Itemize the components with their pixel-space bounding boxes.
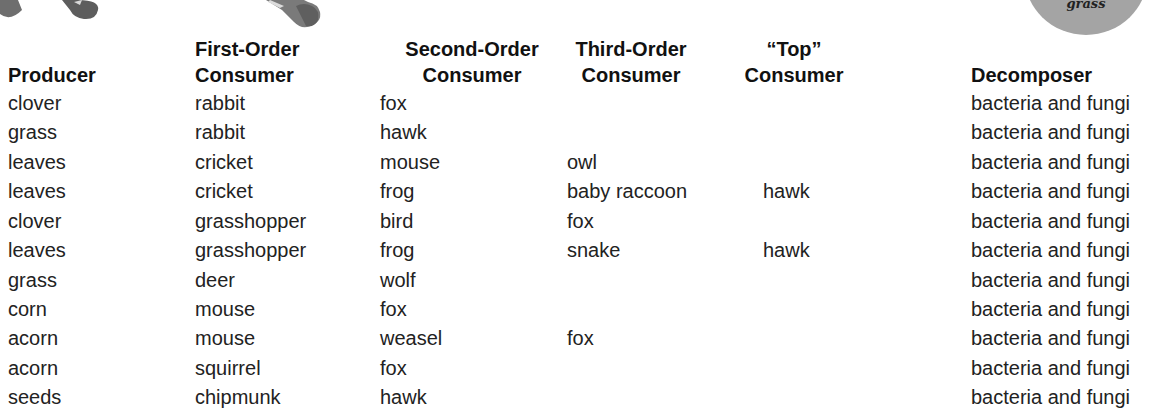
cell-decomposer: bacteria and fungi — [971, 150, 1130, 174]
cell-second-order: frog — [380, 238, 414, 262]
cell-producer: acorn — [8, 356, 58, 380]
cell-third-order: baby raccoon — [567, 179, 687, 203]
header-first-order-consumer: First-Order Consumer — [195, 36, 299, 88]
cell-decomposer: bacteria and fungi — [971, 268, 1130, 292]
cell-decomposer: bacteria and fungi — [971, 356, 1130, 380]
cell-first-order: grasshopper — [195, 209, 306, 233]
cell-decomposer: bacteria and fungi — [971, 120, 1130, 144]
cell-producer: acorn — [8, 326, 58, 350]
cell-first-order: mouse — [195, 326, 255, 350]
header-third-order-consumer: Third-Order Consumer — [566, 36, 696, 88]
cell-first-order: grasshopper — [195, 238, 306, 262]
cell-first-order: cricket — [195, 179, 253, 203]
cell-second-order: fox — [380, 356, 407, 380]
cell-second-order: frog — [380, 179, 414, 203]
cell-first-order: chipmunk — [195, 385, 281, 409]
cell-second-order: bird — [380, 209, 413, 233]
header-line1: Third-Order — [566, 36, 696, 62]
cell-decomposer: bacteria and fungi — [971, 209, 1130, 233]
cell-decomposer: bacteria and fungi — [971, 238, 1130, 262]
cell-top-consumer: hawk — [763, 238, 810, 262]
cell-decomposer: bacteria and fungi — [971, 326, 1130, 350]
header-line2: Consumer — [736, 62, 852, 88]
header-line2: Consumer — [195, 62, 299, 88]
cell-second-order: mouse — [380, 150, 440, 174]
cell-producer: seeds — [8, 385, 61, 409]
cell-producer: clover — [8, 91, 61, 115]
cell-first-order: deer — [195, 268, 235, 292]
header-decomposer: Decomposer — [971, 62, 1092, 88]
cell-producer: corn — [8, 297, 47, 321]
cell-first-order: mouse — [195, 297, 255, 321]
header-line1: First-Order — [195, 36, 299, 62]
cell-second-order: weasel — [380, 326, 442, 350]
cell-second-order: hawk — [380, 385, 427, 409]
cell-second-order: fox — [380, 297, 407, 321]
header-producer: Producer — [8, 62, 96, 88]
cell-producer: clover — [8, 209, 61, 233]
cell-first-order: rabbit — [195, 120, 245, 144]
header-line1: Second-Order — [380, 36, 564, 62]
cell-second-order: wolf — [380, 268, 416, 292]
food-chain-table: Producer First-Order Consumer Second-Ord… — [0, 0, 1154, 410]
cell-first-order: squirrel — [195, 356, 261, 380]
cell-producer: grass — [8, 268, 57, 292]
header-line2: Consumer — [380, 62, 564, 88]
header-label: Producer — [8, 62, 96, 88]
cell-second-order: fox — [380, 91, 407, 115]
cell-decomposer: bacteria and fungi — [971, 385, 1130, 409]
cell-third-order: fox — [567, 209, 594, 233]
cell-second-order: hawk — [380, 120, 427, 144]
cell-producer: leaves — [8, 238, 66, 262]
cell-producer: leaves — [8, 179, 66, 203]
header-second-order-consumer: Second-Order Consumer — [380, 36, 564, 88]
cell-first-order: rabbit — [195, 91, 245, 115]
cell-decomposer: bacteria and fungi — [971, 91, 1130, 115]
cell-third-order: fox — [567, 326, 594, 350]
header-top-consumer: “Top” Consumer — [736, 36, 852, 88]
cell-top-consumer: hawk — [763, 179, 810, 203]
cell-producer: leaves — [8, 150, 66, 174]
header-label: Decomposer — [971, 62, 1092, 88]
cell-producer: grass — [8, 120, 57, 144]
cell-first-order: cricket — [195, 150, 253, 174]
cell-third-order: snake — [567, 238, 620, 262]
cell-decomposer: bacteria and fungi — [971, 297, 1130, 321]
cell-third-order: owl — [567, 150, 597, 174]
header-line2: Consumer — [566, 62, 696, 88]
cell-decomposer: bacteria and fungi — [971, 179, 1130, 203]
header-line1: “Top” — [736, 36, 852, 62]
